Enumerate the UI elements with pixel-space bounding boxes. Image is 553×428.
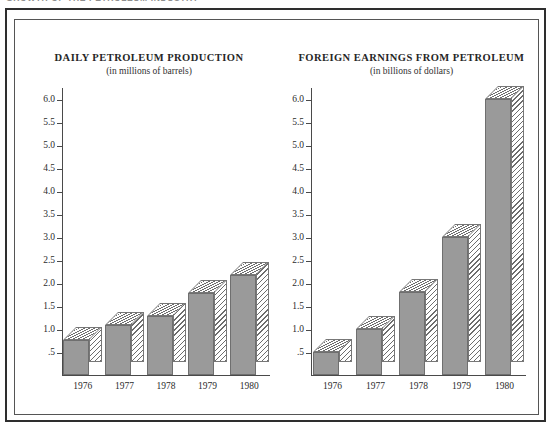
bar-right-1978 — [399, 279, 438, 375]
bar-block — [147, 303, 173, 375]
y-tick-left — [57, 330, 63, 331]
bar-front-face — [188, 293, 214, 375]
y-tick-label-right: 4.0 — [292, 187, 304, 197]
chart-title-left: DAILY PETROLEUM PRODUCTION — [14, 52, 284, 63]
x-tick-label-right: 1976 — [311, 381, 354, 391]
x-tick-label-right: 1979 — [440, 381, 483, 391]
bar-side-face — [511, 86, 524, 362]
y-tick-right — [306, 307, 312, 308]
y-tick-left — [57, 192, 63, 193]
y-tick-left — [57, 353, 63, 354]
y-tick-left — [57, 261, 63, 262]
x-tick-label-left: 1979 — [187, 381, 229, 391]
bar-front-face — [63, 340, 89, 375]
y-axis-right — [311, 88, 312, 376]
bar-front-face — [485, 99, 511, 375]
bar-side-face — [256, 262, 269, 362]
plot-area-left: .51.01.52.02.53.03.54.04.55.05.56.019761… — [62, 88, 270, 376]
y-tick-left — [57, 169, 63, 170]
y-tick-label-left: 1.5 — [43, 302, 55, 312]
x-tick-label-left: 1978 — [145, 381, 187, 391]
y-tick-right — [306, 353, 312, 354]
y-tick-label-left: 1.0 — [43, 325, 55, 335]
y-tick-label-right: 1.5 — [292, 302, 304, 312]
chart-subtitle-left: (in millions of barrels) — [14, 66, 284, 76]
x-axis-right — [311, 375, 526, 376]
bar-side-face — [214, 280, 227, 362]
chart-panel-daily-petroleum-production: DAILY PETROLEUM PRODUCTION (in millions … — [14, 19, 284, 415]
y-tick-left — [57, 123, 63, 124]
bar-block — [399, 279, 425, 375]
y-tick-right — [306, 261, 312, 262]
bar-right-1979 — [442, 224, 481, 375]
y-tick-label-right: 6.0 — [292, 95, 304, 105]
y-tick-label-left: 5.0 — [43, 141, 55, 151]
bar-front-face — [147, 316, 173, 375]
y-tick-left — [57, 284, 63, 285]
y-tick-right — [306, 169, 312, 170]
bar-side-face — [468, 224, 481, 362]
y-tick-right — [306, 330, 312, 331]
x-tick-label-left: 1977 — [104, 381, 146, 391]
bar-left-1979 — [188, 280, 227, 375]
bar-front-face — [399, 292, 425, 375]
bar-front-face — [356, 329, 382, 375]
x-tick-label-left: 1976 — [62, 381, 104, 391]
bar-front-face — [230, 275, 256, 375]
y-tick-right — [306, 238, 312, 239]
x-tick-label-right: 1980 — [483, 381, 526, 391]
x-axis-left — [62, 375, 270, 376]
x-tick-label-left: 1980 — [228, 381, 270, 391]
bar-left-1978 — [147, 303, 186, 375]
bar-front-face — [313, 352, 339, 375]
y-tick-label-right: 4.5 — [292, 164, 304, 174]
y-tick-right — [306, 215, 312, 216]
y-tick-left — [57, 100, 63, 101]
y-tick-label-left: 4.5 — [43, 164, 55, 174]
running-head-text: GROWTH OF THE PETROLEUM INDUSTRY — [6, 0, 199, 3]
y-tick-right — [306, 146, 312, 147]
y-tick-label-right: 2.5 — [292, 256, 304, 266]
bar-left-1977 — [105, 312, 144, 375]
y-tick-left — [57, 307, 63, 308]
y-tick-label-right: 2.0 — [292, 279, 304, 289]
bar-front-face — [442, 237, 468, 375]
bar-right-1976 — [313, 339, 352, 375]
y-tick-label-right: 1.0 — [292, 325, 304, 335]
bar-block — [356, 316, 382, 375]
chart-panel-foreign-earnings-from-petroleum: FOREIGN EARNINGS FROM PETROLEUM (in bill… — [284, 19, 539, 415]
bar-block — [188, 280, 214, 375]
x-tick-label-right: 1978 — [397, 381, 440, 391]
bar-block — [105, 312, 131, 375]
chart-title-right: FOREIGN EARNINGS FROM PETROLEUM — [284, 52, 539, 63]
y-tick-label-right: 5.5 — [292, 118, 304, 128]
y-tick-label-left: 5.5 — [43, 118, 55, 128]
chart-subtitle-right: (in billions of dollars) — [284, 66, 539, 76]
y-tick-label-left: 2.0 — [43, 279, 55, 289]
bar-block — [442, 224, 468, 375]
y-tick-right — [306, 284, 312, 285]
bar-left-1980 — [230, 262, 269, 375]
bar-block — [63, 327, 89, 375]
y-tick-label-left: 6.0 — [43, 95, 55, 105]
bar-block — [230, 262, 256, 375]
y-tick-label-right: .5 — [297, 348, 304, 358]
y-tick-label-right: 3.5 — [292, 210, 304, 220]
y-tick-label-left: 2.5 — [43, 256, 55, 266]
y-tick-label-left: 3.5 — [43, 210, 55, 220]
bar-block — [485, 86, 511, 375]
y-tick-label-left: 4.0 — [43, 187, 55, 197]
y-tick-left — [57, 215, 63, 216]
x-tick-label-right: 1977 — [354, 381, 397, 391]
y-tick-left — [57, 238, 63, 239]
bar-right-1977 — [356, 316, 395, 375]
y-tick-label-left: 3.0 — [43, 233, 55, 243]
bar-side-face — [425, 279, 438, 362]
y-tick-right — [306, 100, 312, 101]
y-tick-label-left: .5 — [48, 348, 55, 358]
bar-block — [313, 339, 339, 375]
y-tick-label-right: 3.0 — [292, 233, 304, 243]
running-head: GROWTH OF THE PETROLEUM INDUSTRY — [0, 0, 553, 6]
y-tick-left — [57, 146, 63, 147]
plot-area-right: .51.01.52.02.53.03.54.04.55.05.56.019761… — [311, 88, 526, 376]
